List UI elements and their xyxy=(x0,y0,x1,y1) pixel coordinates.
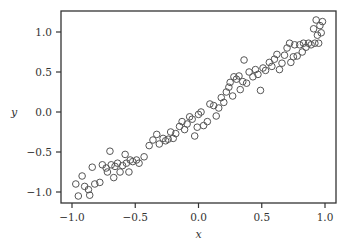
scatter-chart: −1.0−0.50.00.51.0 −1.0−0.50.00.51.0 x y xyxy=(0,0,347,247)
y-axis-ticks: −1.0−0.50.00.51.0 xyxy=(27,26,62,198)
x-tick-label: 0.0 xyxy=(190,211,207,223)
y-tick-label: −1.0 xyxy=(27,186,53,198)
x-tick-label: −1.0 xyxy=(59,211,85,223)
y-tick-label: 0.5 xyxy=(35,66,52,78)
y-tick-label: 1.0 xyxy=(35,26,52,38)
x-axis-label: x xyxy=(195,228,202,241)
x-tick-label: 1.0 xyxy=(317,211,334,223)
x-tick-label: −0.5 xyxy=(123,211,149,223)
x-axis-ticks: −1.0−0.50.00.51.0 xyxy=(59,203,333,223)
y-tick-label: 0.0 xyxy=(35,106,52,118)
x-tick-label: 0.5 xyxy=(253,211,270,223)
y-axis-label: y xyxy=(10,106,18,119)
plot-frame xyxy=(61,11,336,203)
y-tick-label: −0.5 xyxy=(27,146,53,158)
